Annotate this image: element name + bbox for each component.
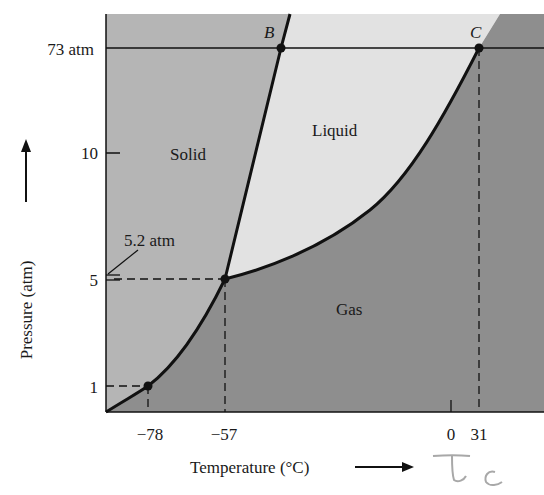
ytick-5: 5 <box>90 271 99 290</box>
label-gas: Gas <box>336 300 362 319</box>
xtick-minus78: −78 <box>137 425 164 444</box>
annotation-5-2atm: 5.2 atm <box>124 231 175 250</box>
label-b: B <box>264 23 275 42</box>
point-1atm <box>144 382 153 391</box>
label-liquid: Liquid <box>312 121 358 140</box>
y-axis-label: Pressure (atm) <box>17 261 36 360</box>
label-c: C <box>470 23 482 42</box>
ytick-73atm: 73 atm <box>47 40 94 59</box>
point-b <box>277 44 286 53</box>
ytick-1: 1 <box>90 378 99 397</box>
xtick-0: 0 <box>447 425 456 444</box>
ytick-10: 10 <box>81 144 98 163</box>
label-solid: Solid <box>170 145 206 164</box>
xtick-minus57: −57 <box>211 425 238 444</box>
triple-point <box>221 275 230 284</box>
xtick-31: 31 <box>471 425 488 444</box>
point-c <box>475 44 484 53</box>
y-axis-arrow-icon <box>21 139 31 152</box>
x-axis-arrow-icon <box>402 462 414 472</box>
x-axis-label: Temperature (°C) <box>190 458 309 477</box>
phase-diagram: Solid Liquid Gas B C 73 atm 10 5.2 atm 5… <box>0 0 544 495</box>
handwritten-tc <box>433 455 502 485</box>
